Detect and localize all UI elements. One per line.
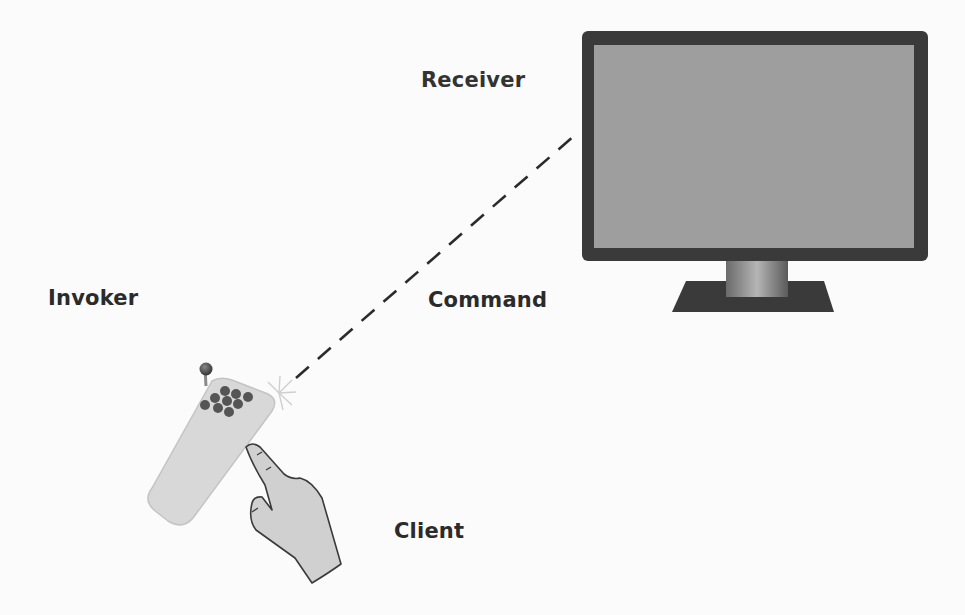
command-label: Command (428, 288, 547, 312)
pointing-hand-icon (246, 444, 341, 583)
invoker-label: Invoker (48, 286, 138, 310)
client-label: Client (394, 519, 464, 543)
receiver-label: Receiver (421, 68, 525, 92)
command-signal-line (296, 136, 574, 378)
tv-monitor-icon (582, 31, 928, 312)
